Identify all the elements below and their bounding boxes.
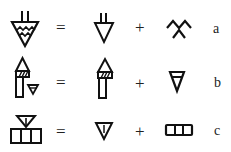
row-label-a: a — [213, 22, 219, 36]
glyph-b-part1-icon — [95, 56, 115, 102]
row-label-b: b — [214, 76, 221, 90]
glyph-c-composite-icon — [9, 114, 43, 146]
glyph-c-part1-icon — [94, 120, 114, 142]
glyph-a-part2-icon — [165, 18, 193, 40]
plus-sign-b: + — [135, 75, 145, 92]
row-label-c: c — [214, 124, 220, 138]
equals-sign-b: = — [56, 74, 66, 91]
glyph-c-part2-icon — [164, 123, 194, 137]
equals-sign-a: = — [56, 19, 66, 36]
glyph-b-part2-icon — [168, 69, 186, 95]
plus-sign-c: + — [135, 123, 145, 140]
glyph-a-part1-icon — [93, 11, 115, 45]
glyph-b-composite-icon — [11, 55, 41, 101]
equals-sign-c: = — [56, 123, 66, 140]
plus-sign-a: + — [135, 19, 145, 36]
glyph-a-composite-icon — [9, 9, 41, 49]
